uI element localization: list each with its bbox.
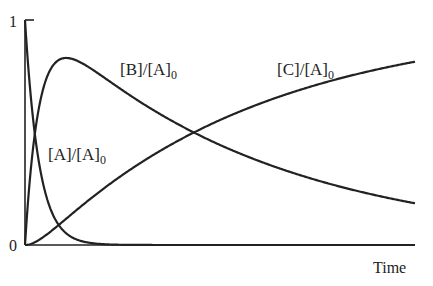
label-B: [B]/[A]0 xyxy=(120,60,177,82)
x-axis-label: Time xyxy=(373,259,406,276)
y-tick-label-0: 0 xyxy=(9,237,17,254)
curve-A xyxy=(25,20,415,245)
kinetics-chart: 1 0 Time [A]/[A]0 [B]/[A]0 [C]/[A]0 xyxy=(0,0,433,286)
curves xyxy=(25,20,415,245)
y-tick-label-1: 1 xyxy=(9,13,17,30)
label-A: [A]/[A]0 xyxy=(48,145,106,167)
axes xyxy=(25,20,415,245)
label-C: [C]/[A]0 xyxy=(277,60,334,82)
